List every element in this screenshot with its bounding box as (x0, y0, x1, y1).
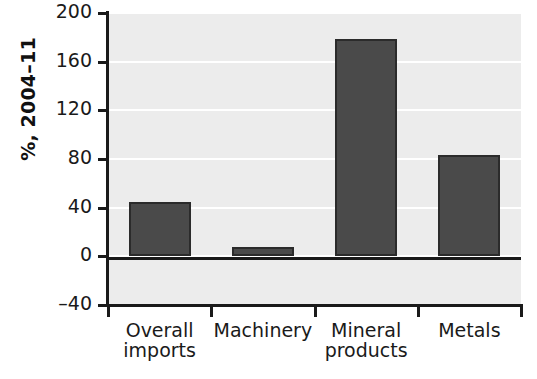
bar-chart: %, 2004–11 –4004080120160200 Overallimpo… (0, 0, 537, 379)
x-axis-tick (520, 304, 523, 317)
x-axis-label-line: Mineral (315, 320, 418, 340)
y-axis-tick-label: 40 (0, 195, 92, 217)
y-axis-tick-label: 160 (0, 49, 92, 71)
y-axis-tick-label: –40 (0, 292, 92, 314)
y-axis-tick-label: 200 (0, 0, 92, 22)
x-axis-tick (314, 304, 317, 317)
y-axis-tick (98, 109, 109, 112)
x-axis-label-line: Overall (108, 320, 211, 340)
x-axis-tick (417, 304, 420, 317)
x-axis-tick-label: Mineralproducts (315, 320, 418, 360)
bar (335, 39, 397, 257)
bar (129, 202, 191, 257)
y-axis-tick (98, 207, 109, 210)
x-axis-label-line: products (315, 340, 418, 360)
x-axis-tick-label: Overallimports (108, 320, 211, 360)
bar (438, 155, 500, 256)
x-axis-label-line: imports (108, 340, 211, 360)
y-axis-tick (98, 158, 109, 161)
gridline (108, 109, 521, 111)
x-axis-tick-label: Machinery (211, 320, 314, 340)
x-axis-tick (107, 304, 110, 317)
y-axis-tick (98, 12, 109, 15)
y-axis-tick (98, 61, 109, 64)
gridline (108, 61, 521, 63)
y-axis-tick-label: 80 (0, 146, 92, 168)
x-axis-tick (210, 304, 213, 317)
y-axis-tick-label: 120 (0, 97, 92, 119)
x-axis-tick-label: Metals (418, 320, 521, 340)
bar (232, 247, 294, 257)
x-axis-label-line: Metals (418, 320, 521, 340)
gridline (108, 12, 521, 14)
y-axis-tick-label: 0 (0, 243, 92, 265)
zero-baseline (108, 257, 521, 260)
x-axis-label-line: Machinery (211, 320, 314, 340)
